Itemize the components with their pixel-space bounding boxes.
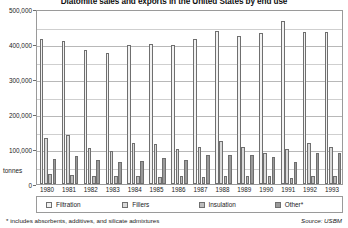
- bar-filtration-1983[interactable]: [106, 53, 110, 184]
- bar-other-1986[interactable]: [184, 160, 188, 185]
- bar-filtration-1987[interactable]: [193, 39, 197, 184]
- y-axis: 0100,000200,000300,000400,000500,000tonn…: [0, 10, 34, 186]
- x-axis-label-1984: 1984: [128, 186, 142, 194]
- bar-fillers-1993[interactable]: [329, 147, 333, 184]
- bar-cluster: [191, 11, 213, 184]
- bar-fillers-1985[interactable]: [154, 144, 158, 184]
- bar-other-1990[interactable]: [272, 157, 276, 184]
- x-axis-label-1991: 1991: [281, 186, 295, 194]
- legend-swatch-icon: [122, 202, 128, 208]
- bar-cluster: [81, 11, 103, 184]
- bar-other-1989[interactable]: [250, 155, 254, 184]
- x-axis-label-1980: 1980: [40, 186, 54, 194]
- bar-cluster: [322, 11, 344, 184]
- plot-area: [36, 10, 343, 185]
- bar-insulation-1984[interactable]: [136, 176, 140, 184]
- bar-series-container: [37, 11, 342, 184]
- bar-other-1993[interactable]: [338, 153, 342, 184]
- x-axis-label-1985: 1985: [150, 186, 164, 194]
- bar-filtration-1980[interactable]: [40, 39, 44, 184]
- bar-filtration-1988[interactable]: [215, 31, 219, 184]
- y-axis-title: tonnes: [3, 167, 22, 174]
- bar-filtration-1984[interactable]: [127, 45, 131, 184]
- bar-cluster: [147, 11, 169, 184]
- y-axis-tick-label: 0: [28, 182, 32, 189]
- bar-filtration-1990[interactable]: [259, 33, 263, 184]
- bar-other-1991[interactable]: [294, 162, 298, 184]
- legend-item-filtration[interactable]: Filtration: [37, 201, 113, 208]
- x-axis-label-1990: 1990: [259, 186, 273, 194]
- bar-insulation-1983[interactable]: [114, 176, 118, 184]
- bar-fillers-1986[interactable]: [176, 149, 180, 184]
- bar-filtration-1991[interactable]: [281, 21, 285, 184]
- bar-other-1983[interactable]: [118, 162, 122, 184]
- legend-item-insulation[interactable]: Insulation: [190, 201, 266, 208]
- x-axis-label-1982: 1982: [84, 186, 98, 194]
- bar-cluster: [256, 11, 278, 184]
- chart-legend: FiltrationFillersInsulationOther*: [36, 196, 343, 213]
- bar-other-1987[interactable]: [206, 155, 210, 184]
- x-axis-labels: 1980198119821983198419851986198719881989…: [36, 186, 343, 196]
- bar-filtration-1985[interactable]: [149, 44, 153, 184]
- chart-title: Diatomite sales and exports in the Unite…: [0, 0, 348, 6]
- bar-fillers-1980[interactable]: [44, 138, 48, 184]
- bar-other-1980[interactable]: [53, 159, 57, 184]
- y-axis-tick-label: 500,000: [9, 7, 32, 14]
- bar-other-1981[interactable]: [75, 156, 79, 184]
- bar-insulation-1993[interactable]: [333, 176, 337, 184]
- bar-fillers-1982[interactable]: [88, 148, 92, 184]
- bar-cluster: [59, 11, 81, 184]
- x-axis-label-1993: 1993: [325, 186, 339, 194]
- bar-insulation-1985[interactable]: [158, 177, 162, 184]
- bar-fillers-1984[interactable]: [132, 143, 136, 184]
- legend-label: Filtration: [56, 201, 81, 208]
- bar-filtration-1981[interactable]: [62, 41, 66, 184]
- bar-insulation-1982[interactable]: [92, 176, 96, 184]
- bar-other-1982[interactable]: [96, 160, 100, 184]
- x-axis-label-1989: 1989: [237, 186, 251, 194]
- x-axis-label-1983: 1983: [106, 186, 120, 194]
- bar-filtration-1982[interactable]: [84, 50, 88, 184]
- bar-insulation-1989[interactable]: [246, 176, 250, 184]
- bar-insulation-1980[interactable]: [48, 174, 52, 184]
- bar-insulation-1988[interactable]: [224, 176, 228, 184]
- x-axis-label-1992: 1992: [303, 186, 317, 194]
- legend-label: Other*: [285, 201, 303, 208]
- bar-cluster: [212, 11, 234, 184]
- bar-filtration-1989[interactable]: [237, 36, 241, 184]
- bar-insulation-1990[interactable]: [268, 176, 272, 184]
- y-axis-tick-label: 400,000: [9, 42, 32, 49]
- x-axis-label-1988: 1988: [215, 186, 229, 194]
- bar-filtration-1992[interactable]: [303, 32, 307, 184]
- bar-other-1988[interactable]: [228, 155, 232, 184]
- bar-insulation-1986[interactable]: [180, 176, 184, 184]
- bar-fillers-1983[interactable]: [110, 151, 114, 184]
- bar-fillers-1991[interactable]: [285, 149, 289, 184]
- bar-other-1984[interactable]: [140, 161, 144, 184]
- bar-insulation-1992[interactable]: [311, 176, 315, 184]
- legend-label: Fillers: [132, 201, 149, 208]
- bar-fillers-1981[interactable]: [66, 135, 70, 184]
- bar-fillers-1992[interactable]: [307, 143, 311, 184]
- bar-cluster: [234, 11, 256, 184]
- bar-filtration-1993[interactable]: [325, 32, 329, 184]
- bar-fillers-1989[interactable]: [241, 147, 245, 184]
- bar-insulation-1991[interactable]: [290, 178, 294, 184]
- bar-filtration-1986[interactable]: [171, 45, 175, 184]
- bar-fillers-1987[interactable]: [198, 147, 202, 184]
- legend-label: Insulation: [209, 201, 236, 208]
- bar-other-1985[interactable]: [162, 158, 166, 184]
- bar-cluster: [103, 11, 125, 184]
- bar-cluster: [278, 11, 300, 184]
- y-axis-tick-label: 200,000: [9, 112, 32, 119]
- bar-fillers-1988[interactable]: [219, 141, 223, 184]
- x-axis-label-1987: 1987: [193, 186, 207, 194]
- legend-item-fillers[interactable]: Fillers: [113, 201, 189, 208]
- chart-root: Diatomite sales and exports in the Unite…: [0, 0, 348, 228]
- legend-swatch-icon: [275, 202, 281, 208]
- legend-item-other[interactable]: Other*: [266, 201, 342, 208]
- bar-insulation-1981[interactable]: [70, 175, 74, 184]
- bar-other-1992[interactable]: [316, 153, 320, 185]
- bar-insulation-1987[interactable]: [202, 177, 206, 184]
- bar-fillers-1990[interactable]: [263, 153, 267, 184]
